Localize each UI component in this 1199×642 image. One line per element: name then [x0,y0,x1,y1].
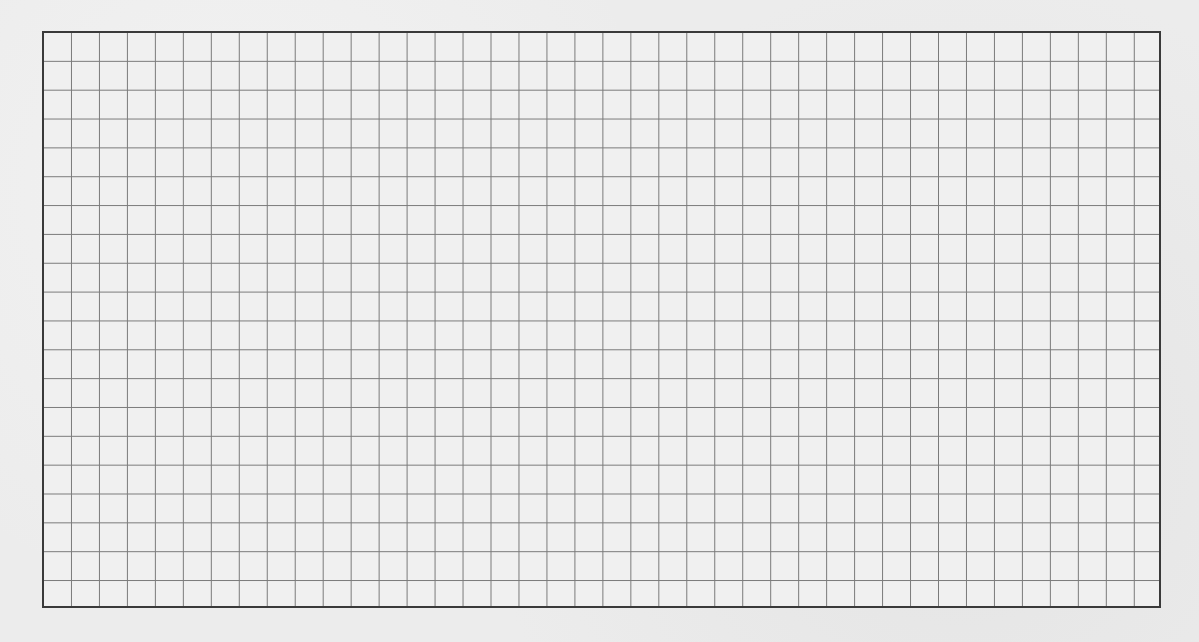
grid-area [42,31,1161,608]
